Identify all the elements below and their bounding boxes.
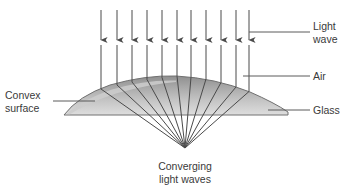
- optics-diagram: Light wave Air Glass Convex surface Conv…: [0, 0, 352, 192]
- label-air: Air: [313, 70, 326, 82]
- caption-line1: Converging: [158, 160, 212, 172]
- label-light-wave-line2: wave: [312, 33, 338, 45]
- caption-line2: light waves: [159, 173, 211, 185]
- lens-body: [64, 76, 288, 115]
- diagram-canvas: Light wave Air Glass Convex surface Conv…: [0, 0, 352, 192]
- incident-rays: [101, 10, 249, 40]
- label-convex-line1: Convex: [5, 89, 41, 101]
- label-light-wave-line1: Light: [313, 20, 336, 32]
- label-glass: Glass: [313, 104, 340, 116]
- label-convex-line2: surface: [5, 102, 40, 114]
